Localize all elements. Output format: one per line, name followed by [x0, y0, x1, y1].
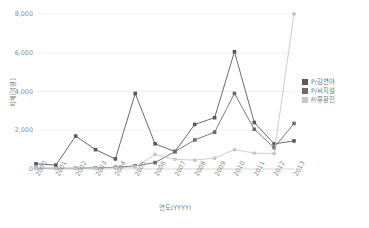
data-point — [173, 150, 177, 154]
legend-swatch-icon — [302, 79, 308, 85]
series-0 — [34, 50, 296, 167]
legend-swatch-icon — [302, 97, 308, 103]
data-point — [292, 139, 296, 143]
data-point — [292, 12, 296, 16]
data-point — [173, 157, 177, 161]
data-point — [153, 142, 157, 146]
series-1 — [34, 92, 296, 170]
data-point — [233, 92, 237, 96]
legend-swatch-icon — [302, 88, 308, 94]
data-point — [133, 92, 137, 96]
data-point — [193, 158, 197, 162]
data-point — [74, 134, 78, 138]
x-axis-title: 연도(YYYY) — [110, 203, 240, 212]
data-point — [292, 122, 296, 126]
legend-item[interactable]: P/씨지섬 — [302, 88, 335, 94]
data-point — [253, 127, 257, 131]
y-tick-label: 6,000 — [5, 49, 33, 57]
y-tick-label: 0 — [5, 165, 33, 173]
y-axis-title: 피해[억원] — [8, 65, 17, 121]
data-point — [94, 148, 98, 152]
series-line — [36, 52, 294, 165]
chart-legend: P/김연아P/씨지섬P/휴환진 — [302, 79, 335, 103]
line-chart: 02,0004,0006,0008,000 피해[억원] 20002001200… — [0, 0, 369, 228]
plot-area — [0, 0, 369, 228]
data-point — [252, 151, 256, 155]
data-point — [213, 116, 217, 120]
data-point — [193, 123, 197, 127]
legend-label: P/휴환진 — [311, 97, 335, 103]
legend-label: P/김연아 — [311, 79, 335, 85]
data-point — [233, 50, 237, 54]
data-point — [153, 161, 157, 165]
data-point — [233, 148, 237, 152]
data-point — [253, 121, 257, 125]
legend-label: P/씨지섬 — [311, 88, 335, 94]
y-tick-label: 2,000 — [5, 126, 33, 134]
legend-item[interactable]: P/김연아 — [302, 79, 335, 85]
y-tick-label: 8,000 — [5, 10, 33, 18]
data-point — [272, 152, 276, 156]
data-point — [193, 138, 197, 142]
legend-item[interactable]: P/휴환진 — [302, 97, 335, 103]
data-point — [213, 130, 217, 134]
data-point — [153, 153, 157, 157]
data-point — [114, 157, 118, 161]
data-point — [213, 156, 217, 160]
